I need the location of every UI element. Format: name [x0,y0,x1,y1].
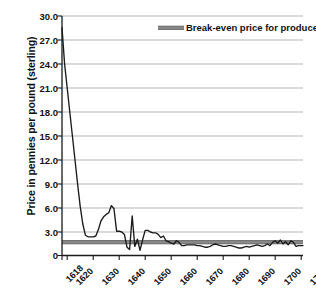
legend-label-breakeven: Break-even price for producers [186,22,316,33]
tobacco-price-chart: Price in pennies per pound (sterling) 30… [0,0,316,303]
legend-swatch [158,26,184,29]
breakeven-band [62,241,303,244]
y-axis-ticks [58,16,63,256]
price-series-line [62,28,303,251]
x-axis-ticks [62,256,301,261]
gridlines [62,16,303,232]
chart-canvas [0,0,316,303]
